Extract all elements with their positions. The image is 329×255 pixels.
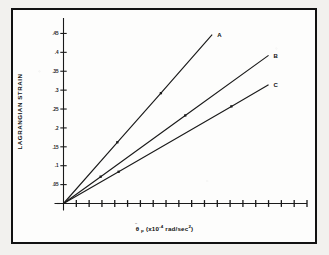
y-axis-tick-label: .25 [52, 107, 59, 112]
data-point-marker-c [230, 105, 232, 107]
x-axis-rest-a: (x10 [144, 225, 159, 232]
chart-svg: .05.1.15.2.25.3.35.4.45 ABC [0, 0, 329, 255]
y-axis-tick-label: .05 [52, 182, 59, 187]
y-axis-tick-label: .35 [52, 69, 59, 74]
x-axis-title: θ¨p (x10-4 rad/sec2) [0, 224, 329, 233]
y-axis-tick-label: .3 [55, 88, 59, 93]
y-axis-tick-label: .2 [55, 126, 59, 131]
series-label-b: B [274, 53, 279, 59]
data-point-marker-a [116, 141, 118, 143]
x-axis-rest-b: rad/sec [163, 225, 188, 232]
series-line-b [64, 55, 269, 203]
y-axis-tick-label: .15 [52, 145, 59, 150]
y-axis-tick-label: .4 [55, 50, 59, 55]
series-line-c [64, 85, 269, 204]
axes-group: .05.1.15.2.25.3.35.4.45 [52, 18, 307, 211]
data-point-marker-b [184, 114, 186, 116]
series-labels-group: ABC [217, 32, 278, 88]
y-axis-tick-label: .45 [52, 31, 59, 36]
y-axis-title: LAGRANGIAN STRAIN [16, 62, 23, 162]
series-label-a: A [217, 32, 222, 38]
data-point-marker-a [160, 92, 162, 94]
data-point-marker-c [117, 171, 119, 173]
series-line-a [64, 35, 213, 204]
series-label-c: C [274, 82, 279, 88]
figure-root: .05.1.15.2.25.3.35.4.45 ABC LAGRANGIAN S… [0, 0, 329, 255]
y-axis-tick-label: .1 [55, 163, 59, 168]
series-group [64, 35, 269, 204]
plot-area: .05.1.15.2.25.3.35.4.45 ABC [0, 0, 329, 255]
x-axis-rest-c: ) [191, 225, 193, 232]
data-point-marker-b [100, 176, 102, 178]
